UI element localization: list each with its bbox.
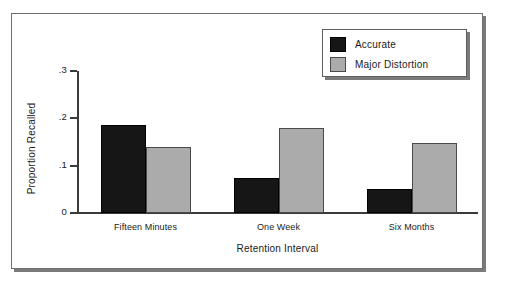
legend-item-distortion: Major Distortion xyxy=(330,55,428,73)
bar-distortion-fifteen-minutes xyxy=(146,147,191,213)
legend-item-accurate: Accurate xyxy=(330,35,396,53)
figure-container: 0 .1 .2 .3 Proportion Recalled Retention… xyxy=(0,0,505,288)
y-tick-3 xyxy=(70,70,77,72)
y-axis-line xyxy=(77,71,79,214)
category-label-2: Six Months xyxy=(352,222,472,232)
legend-swatch-accurate-icon xyxy=(330,37,346,52)
y-tick-0 xyxy=(70,212,77,214)
bar-accurate-one-week xyxy=(234,178,279,214)
y-tick-1 xyxy=(70,165,77,167)
y-tick-2 xyxy=(70,117,77,119)
bar-distortion-one-week xyxy=(279,128,324,213)
y-axis-title: Proportion Recalled xyxy=(26,89,37,209)
bar-accurate-fifteen-minutes xyxy=(101,125,146,213)
category-label-1: One Week xyxy=(219,222,339,232)
plot-area: 0 .1 .2 .3 Proportion Recalled Retention… xyxy=(0,0,505,288)
x-axis-title: Retention Interval xyxy=(77,243,478,254)
legend-label-accurate: Accurate xyxy=(355,39,396,50)
bar-accurate-six-months xyxy=(367,189,412,213)
category-label-0: Fifteen Minutes xyxy=(86,222,206,232)
legend-swatch-distortion-icon xyxy=(330,57,346,72)
y-tick-label-3: .3 xyxy=(41,64,67,75)
y-tick-label-0: 0 xyxy=(41,206,67,217)
bar-distortion-six-months xyxy=(412,143,457,213)
y-tick-label-1: .1 xyxy=(41,159,67,170)
y-tick-label-2: .2 xyxy=(41,111,67,122)
legend-box: Accurate Major Distortion xyxy=(322,29,467,77)
legend-label-distortion: Major Distortion xyxy=(355,59,428,70)
